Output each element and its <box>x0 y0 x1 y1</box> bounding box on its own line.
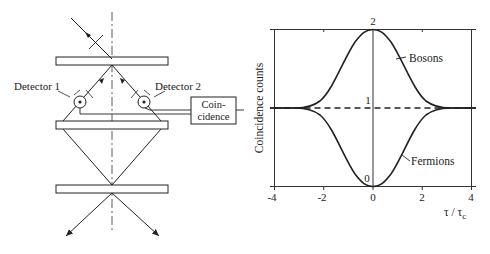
experimental-setup-diagram: Detector 1 Detector 2 Coin- cidence <box>14 12 244 236</box>
detector-2-label: Detector 2 <box>155 80 201 92</box>
y-axis-label: Coincidence counts <box>253 62 265 153</box>
plate-top <box>56 57 168 65</box>
polarization-mark <box>89 35 103 49</box>
x-axis-label: τ / τc <box>444 206 466 221</box>
ray-to-detector-2 <box>112 65 161 121</box>
coincidence-label-line2: cidence <box>197 111 229 122</box>
fermions-leader <box>402 155 410 161</box>
plate-middle <box>56 121 168 129</box>
x-axis-label-sub: c <box>462 211 466 221</box>
outgoing-ray-right <box>112 193 159 236</box>
y-label-2: 2 <box>370 15 376 27</box>
coincidence-label-line1: Coin- <box>202 99 226 110</box>
coincidence-chart: Bosons Fermions 2 1 0 -4 -2 0 2 4 τ / τc… <box>253 15 476 221</box>
x-axis-label-main: τ / τ <box>444 206 463 218</box>
converging-ray-left <box>63 129 112 185</box>
outgoing-ray-left <box>66 193 112 236</box>
fermions-annotation: Fermions <box>411 155 455 167</box>
wire-detector-2 <box>145 108 191 110</box>
x-tick-neg2: -2 <box>317 191 326 203</box>
incident-ray <box>71 18 112 59</box>
wire-detector-1 <box>80 108 191 114</box>
x-tick-neg4: -4 <box>267 191 277 203</box>
detector-2 <box>131 90 165 108</box>
y-label-1: 1 <box>365 94 371 106</box>
y-label-0: 0 <box>364 172 370 184</box>
detector-1-label: Detector 1 <box>14 80 60 92</box>
figure-canvas: Detector 1 Detector 2 Coin- cidence <box>0 0 490 254</box>
x-tick-2: 2 <box>419 191 425 203</box>
bosons-annotation: Bosons <box>409 52 443 64</box>
x-tick-0: 0 <box>370 191 376 203</box>
ray-to-detector-1 <box>63 65 112 121</box>
converging-ray-right <box>112 129 161 185</box>
coincidence-unit: Coin- cidence <box>191 97 236 124</box>
plate-bottom <box>56 185 168 193</box>
x-tick-4: 4 <box>468 191 474 203</box>
